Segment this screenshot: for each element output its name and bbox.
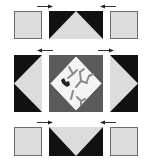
pressing-arrow-left-icon [100,4,116,9]
pressing-arrow-left-icon [37,48,53,53]
top-right-corner-square [110,11,138,39]
bottom-right-corner-square [110,127,138,156]
top-left-corner-square [14,11,42,39]
pressing-arrow-right-icon [37,120,53,125]
center-square-in-square-block [49,55,103,112]
pressing-arrow-right-icon [37,4,53,9]
pressing-arrow-left-icon [100,120,116,125]
bottom-left-corner-square [14,127,42,156]
top-flying-geese-block [49,11,103,39]
bottom-flying-geese-block [49,127,103,156]
left-flying-geese-block [14,55,42,112]
right-flying-geese-block [110,55,138,112]
pressing-arrow-right-icon [98,48,114,53]
